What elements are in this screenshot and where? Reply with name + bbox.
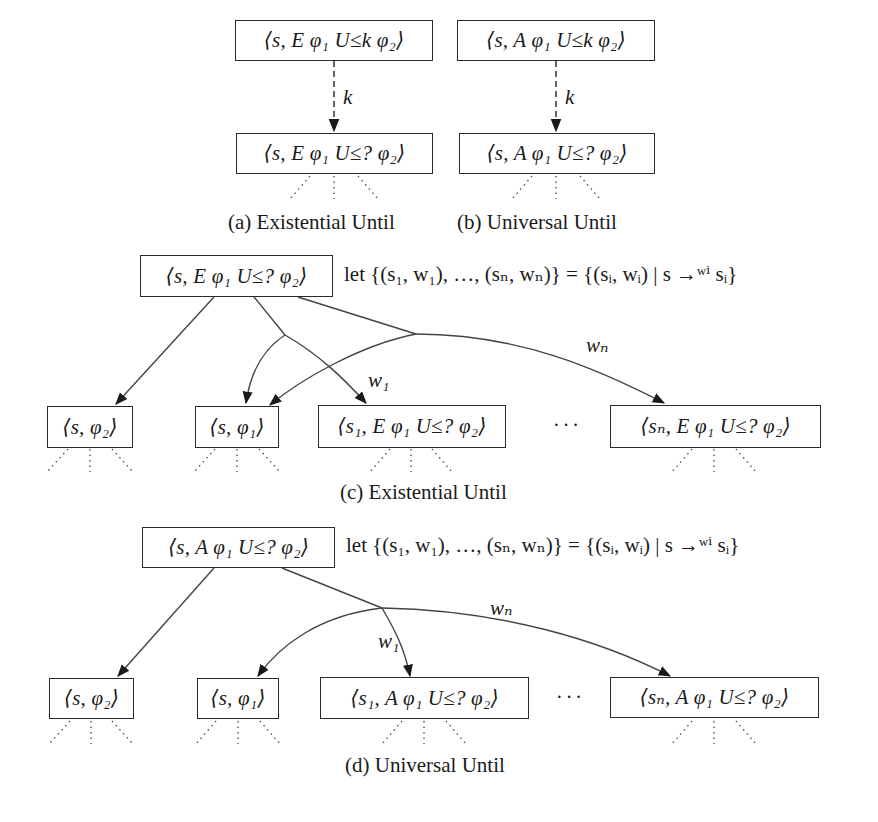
panel-a-bottom-node: ⟨s, E φ₁ U≤? φ₂⟩ [236,133,433,174]
panel-c-let-expression: let {(s₁, w₁), …, (sₙ, wₙ)} = {(sᵢ, wᵢ) … [344,262,737,287]
panel-d-child-s-phi2: ⟨s, φ₂⟩ [49,678,134,719]
panel-c-ellipsis: ··· [553,414,582,437]
subtree-dots-c [47,449,756,472]
node-label: ⟨s, E φ₁ U≤? φ₂⟩ [166,264,308,289]
panel-d-edge-label-wn: wₙ [490,596,513,621]
panel-b-top-node: ⟨s, A φ₁ U≤k φ₂⟩ [457,20,655,61]
panel-a-edge-label: k [343,85,352,110]
panel-c-edge-label-wn: wₙ [586,333,609,358]
panel-d-caption: (d) Universal Until [345,753,505,778]
node-label: ⟨s₁, A φ₁ U≤? φ₂⟩ [350,686,499,711]
panel-b-bottom-node: ⟨s, A φ₁ U≤? φ₂⟩ [459,133,655,174]
panel-d-child-s-phi1: ⟨s, φ₁⟩ [197,678,279,719]
node-label: ⟨s, E φ₁ U≤k φ₂⟩ [264,28,405,53]
node-label: ⟨s, A φ₁ U≤k φ₂⟩ [486,28,626,53]
panel-a-caption: (a) Existential Until [228,210,395,235]
panel-d-edge-label-w1: w₁ [378,629,399,654]
panel-b-edge-label: k [565,85,574,110]
node-label: ⟨s, φ₁⟩ [209,415,264,440]
panel-c-child-s1: ⟨s₁, E φ₁ U≤? φ₂⟩ [318,405,506,448]
panel-d-ellipsis: ··· [556,686,585,709]
node-label: ⟨s, φ₁⟩ [210,686,265,711]
node-label: ⟨s, A φ₁ U≤? φ₂⟩ [168,535,309,560]
node-label: ⟨s₁, E φ₁ U≤? φ₂⟩ [337,414,486,439]
node-label: ⟨sₙ, E φ₁ U≤? φ₂⟩ [640,414,791,439]
node-label: ⟨s, E φ₁ U≤? φ₂⟩ [264,141,406,166]
node-label: ⟨sₙ, A φ₁ U≤? φ₂⟩ [640,685,790,710]
node-label: ⟨s, A φ₁ U≤? φ₂⟩ [486,141,627,166]
subtree-dots-d [49,721,756,744]
panel-c-child-sn: ⟨sₙ, E φ₁ U≤? φ₂⟩ [610,405,821,448]
panel-c-edge-label-w1: w₁ [368,368,389,393]
node-label: ⟨s, φ₂⟩ [64,686,119,711]
panel-d-let-expression: let {(s₁, w₁), …, (sₙ, wₙ)} = {(sᵢ, wᵢ) … [346,533,739,558]
panel-a-top-node: ⟨s, E φ₁ U≤k φ₂⟩ [235,20,433,61]
panel-d-root-node: ⟨s, A φ₁ U≤? φ₂⟩ [142,527,335,568]
panel-c-child-s-phi2: ⟨s, φ₂⟩ [47,406,133,448]
panel-c-caption: (c) Existential Until [340,480,507,505]
panel-c-edges [116,297,664,405]
panel-d-child-s1: ⟨s₁, A φ₁ U≤? φ₂⟩ [320,677,529,719]
panel-d-child-sn: ⟨sₙ, A φ₁ U≤? φ₂⟩ [610,677,819,718]
panel-c-child-s-phi1: ⟨s, φ₁⟩ [195,406,279,448]
panel-b-caption: (b) Universal Until [457,210,617,235]
panel-c-root-node: ⟨s, E φ₁ U≤? φ₂⟩ [140,255,333,297]
panel-d-edges [118,568,670,676]
subtree-dots-a-b [290,176,600,199]
node-label: ⟨s, φ₂⟩ [62,415,117,440]
